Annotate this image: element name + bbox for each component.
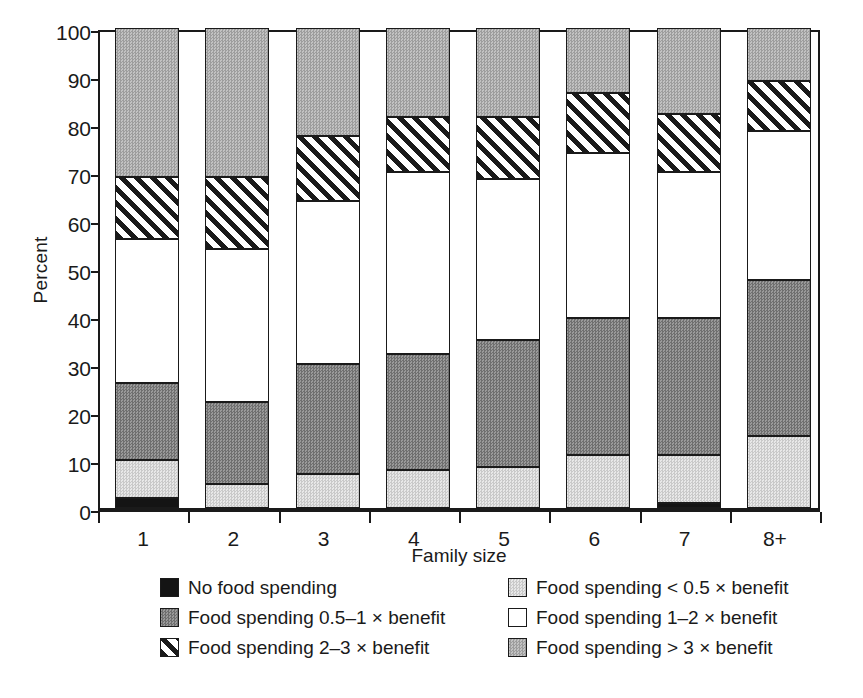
bar-segment-lt05[interactable] [386,470,450,508]
y-tick-mark [91,127,100,129]
bar-segment-lt05[interactable] [747,436,811,508]
legend-label: Food spending 0.5–1 × benefit [188,608,445,627]
bar-segment-lt05[interactable] [566,455,630,508]
y-tick-mark [91,31,100,33]
bar-5[interactable] [476,28,540,508]
bar-segment-lt05[interactable] [296,474,360,508]
bar-segment-2_3[interactable] [747,81,811,131]
x-tick-mark [820,512,822,523]
bar-segment-05_1[interactable] [657,318,721,455]
legend-swatch-2_3-icon [160,638,179,657]
bar-7[interactable] [657,28,721,508]
bar-segment-05_1[interactable] [566,318,630,455]
legend-row: Food spending 0.5–1 × benefitFood spendi… [160,608,800,627]
x-tick-mark [730,512,732,523]
bar-segment-05_1[interactable] [115,383,179,460]
legend-label: Food spending > 3 × benefit [536,638,773,657]
legend-label: Food spending < 0.5 × benefit [536,578,788,597]
legend-swatch-gt3-icon [508,638,527,657]
bar-2[interactable] [205,28,269,508]
x-axis: 12345678+ [98,510,820,512]
bar-segment-lt05[interactable] [476,467,540,508]
bar-segment-gt3[interactable] [747,28,811,81]
legend-row: No food spendingFood spending < 0.5 × be… [160,578,800,597]
bar-segment-none[interactable] [115,498,179,508]
bar-segment-2_3[interactable] [115,177,179,239]
legend-item-1_2[interactable]: Food spending 1–2 × benefit [508,608,800,627]
bar-8plus[interactable] [747,28,811,508]
bar-4[interactable] [386,28,450,508]
bar-segment-1_2[interactable] [747,131,811,280]
bar-segment-1_2[interactable] [566,153,630,319]
y-tick-mark [91,271,100,273]
bar-segment-1_2[interactable] [386,172,450,354]
bar-segment-2_3[interactable] [566,93,630,153]
bar-segment-gt3[interactable] [115,28,179,177]
bar-segment-gt3[interactable] [657,28,721,114]
bar-segment-2_3[interactable] [476,117,540,179]
legend-item-none[interactable]: No food spending [160,578,508,597]
y-tick-mark [91,415,100,417]
y-tick-mark [91,223,100,225]
y-tick-mark [91,175,100,177]
legend-label: No food spending [188,578,337,597]
bar-segment-1_2[interactable] [657,172,721,318]
bar-segment-2_3[interactable] [386,117,450,172]
legend-item-lt05[interactable]: Food spending < 0.5 × benefit [508,578,800,597]
y-tick-mark [91,319,100,321]
x-tick-mark [98,512,100,523]
plot-area: 0102030405060708090100 [98,30,820,510]
legend-swatch-1_2-icon [508,608,527,627]
y-tick-mark [91,463,100,465]
bar-1[interactable] [115,28,179,508]
bar-segment-1_2[interactable] [476,179,540,340]
bar-segment-none[interactable] [657,503,721,508]
legend-label: Food spending 2–3 × benefit [188,638,429,657]
x-tick-mark [188,512,190,523]
bar-segment-lt05[interactable] [205,484,269,508]
bars-container [100,32,818,508]
legend-swatch-05_1-icon [160,608,179,627]
bar-segment-05_1[interactable] [205,402,269,484]
bar-segment-05_1[interactable] [747,280,811,436]
legend-swatch-lt05-icon [508,578,527,597]
legend-item-gt3[interactable]: Food spending > 3 × benefit [508,638,800,657]
bar-segment-gt3[interactable] [296,28,360,136]
chart-legend: No food spendingFood spending < 0.5 × be… [160,578,800,668]
legend-item-05_1[interactable]: Food spending 0.5–1 × benefit [160,608,508,627]
bar-6[interactable] [566,28,630,508]
bar-segment-1_2[interactable] [205,249,269,403]
bar-segment-2_3[interactable] [296,136,360,201]
y-tick-mark [91,367,100,369]
y-tick-mark [91,79,100,81]
bar-segment-2_3[interactable] [657,114,721,172]
bar-segment-05_1[interactable] [296,364,360,474]
bar-3[interactable] [296,28,360,508]
x-tick-mark [279,512,281,523]
bar-segment-gt3[interactable] [566,28,630,93]
legend-row: Food spending 2–3 × benefitFood spending… [160,638,800,657]
bar-segment-lt05[interactable] [657,455,721,503]
legend-label: Food spending 1–2 × benefit [536,608,777,627]
x-axis-label: Family size [98,545,820,567]
bar-segment-05_1[interactable] [476,340,540,467]
legend-swatch-none-icon [160,578,179,597]
stacked-bar-chart-figure: Percent 0102030405060708090100 12345678+… [0,0,863,698]
x-tick-mark [459,512,461,523]
x-tick-mark [549,512,551,523]
x-tick-mark [640,512,642,523]
bar-segment-gt3[interactable] [476,28,540,117]
bar-segment-2_3[interactable] [205,177,269,249]
x-tick-mark [369,512,371,523]
bar-segment-gt3[interactable] [386,28,450,117]
bar-segment-gt3[interactable] [205,28,269,177]
bar-segment-lt05[interactable] [115,460,179,498]
y-axis-label: Percent [30,190,60,350]
bar-segment-1_2[interactable] [296,201,360,364]
bar-segment-05_1[interactable] [386,354,450,469]
bar-segment-1_2[interactable] [115,239,179,383]
y-axis-label-container: Percent [0,0,60,490]
legend-item-2_3[interactable]: Food spending 2–3 × benefit [160,638,508,657]
